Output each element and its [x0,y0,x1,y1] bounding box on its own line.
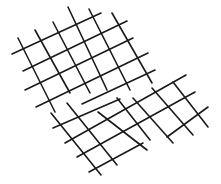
upper-grid-line [112,13,152,83]
lower-grid-line [53,99,120,128]
upper-grid-line [53,22,90,93]
lower-grid-line [98,112,147,150]
upper-grid-line [18,38,55,112]
grid-drawing-svg [0,0,221,184]
lower-grid-line [89,143,143,172]
upper-grid [12,7,155,112]
lower-grid-line [51,113,101,175]
lower-grid-line [67,103,117,165]
grid-drawing [0,0,221,184]
